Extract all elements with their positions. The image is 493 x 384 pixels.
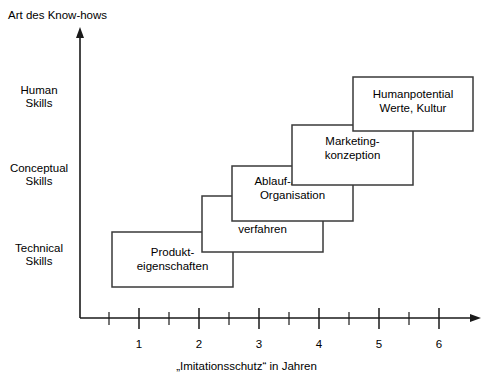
step-box-marketingkonzeption: Marketing- konzeption (292, 125, 413, 185)
x-tick-label-3: 3 (256, 338, 262, 350)
x-axis (80, 314, 481, 322)
x-axis-tick-labels: 1 2 3 4 5 6 (136, 338, 442, 350)
x-axis-title: „Imitationsschutz“ in Jahren (0, 360, 493, 373)
step-box-marketingkonzeption-line2: konzeption (325, 149, 381, 161)
x-tick-label-6: 6 (436, 338, 442, 350)
x-tick-label-1: 1 (136, 338, 142, 350)
step-box-humanpotential-line1: Humanpotential (373, 88, 454, 100)
step-box-fertigungsverfahren-line2: verfahren (238, 223, 287, 235)
step-box-humanpotential: Humanpotential Werte, Kultur (353, 77, 473, 131)
step-box-marketingkonzeption-line1: Marketing- (325, 135, 379, 147)
step-box-produkteigenschaften-line2: eigenschaften (137, 260, 209, 272)
x-tick-label-5: 5 (376, 338, 382, 350)
y-axis-arrow-icon (76, 27, 84, 38)
diagram-canvas: 1 2 3 4 5 6 Produkt- eigenschaften Ferti… (0, 0, 493, 384)
x-axis-arrow-icon (470, 314, 481, 322)
step-box-humanpotential-line2: Werte, Kultur (380, 102, 447, 114)
step-box-produkteigenschaften-line1: Produkt- (151, 246, 195, 258)
knowhow-staircase-diagram: Art des Know-hows Human Skills Conceptua… (0, 0, 493, 384)
step-box-ablauf-aufbau-organisation-line2: Organisation (260, 189, 325, 201)
x-tick-label-2: 2 (196, 338, 202, 350)
y-axis (76, 27, 84, 318)
x-tick-label-4: 4 (316, 338, 323, 350)
